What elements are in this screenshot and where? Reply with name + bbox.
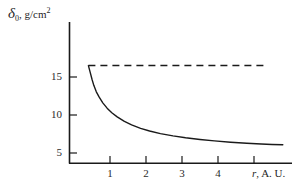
- axis-lines: [69, 22, 292, 164]
- y-axis-ticks: [70, 77, 78, 153]
- y-tick-label-15: 15: [40, 71, 62, 82]
- delta-0-curve-line: [88, 66, 282, 145]
- y-tick-label-5: 5: [40, 147, 62, 158]
- x-tick-label-1: 1: [101, 168, 119, 179]
- chart-figure: δ0, g/cm2 15 10 5 1 2 3 4 r, A. U.: [0, 0, 306, 196]
- x-axis-units: , A. U.: [256, 167, 285, 179]
- y-tick-label-10: 10: [40, 109, 62, 120]
- x-axis-title: r, A. U.: [252, 168, 285, 179]
- x-tick-label-4: 4: [209, 168, 227, 179]
- x-axis-ticks: [110, 156, 254, 163]
- x-tick-label-3: 3: [173, 168, 191, 179]
- x-tick-label-2: 2: [137, 168, 155, 179]
